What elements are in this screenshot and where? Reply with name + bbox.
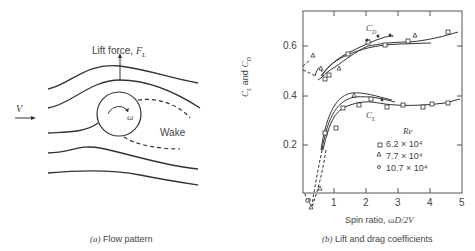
ytick-0.6: 0.6 — [283, 40, 297, 51]
caption-a-prefix: (a) — [90, 234, 101, 244]
wake-lower-line — [124, 137, 180, 149]
cylinder — [97, 92, 141, 136]
streamline — [48, 66, 198, 89]
wake-upper-line — [138, 99, 190, 118]
xtick-1: 1 — [331, 197, 337, 208]
x-axis-label: Spin ratio, ωD/2V — [345, 215, 413, 225]
omega-label: ω — [127, 112, 133, 122]
cd-curve-label: CD — [366, 23, 376, 35]
y-axis-label: CL and CD — [240, 57, 252, 97]
caption-a-text: Flow pattern — [103, 234, 153, 244]
legend-markers — [377, 143, 382, 169]
legend-title: Re — [403, 126, 413, 136]
caption-b-text: Lift and drag coefficients — [335, 234, 432, 244]
caption-b-prefix: (b) — [322, 234, 333, 244]
streamline — [48, 123, 98, 133]
x-axis-label-prefix: Spin ratio, — [345, 215, 388, 225]
streamline — [48, 171, 198, 185]
ytick-0.2: 0.2 — [283, 139, 297, 150]
cl-curve-label: CL — [366, 110, 375, 122]
cd-curve-7.7e4 — [322, 43, 431, 76]
xtick-4: 4 — [427, 197, 433, 208]
lift-force-label: Lift force, FL — [92, 45, 146, 59]
lift-subscript: L — [142, 51, 146, 59]
x-axis-label-expr: ωD/2V — [388, 215, 413, 225]
wake-label: Wake — [160, 127, 185, 138]
velocity-label: V — [16, 103, 22, 114]
xtick-5: 5 — [459, 197, 465, 208]
legend-item-10.7e4: 10.7 × 10⁴ — [386, 163, 428, 173]
legend-item-6.2e4: 6.2 × 10⁴ — [386, 139, 423, 149]
caption-a: (a) Flow pattern — [90, 234, 153, 244]
xtick-2: 2 — [363, 197, 369, 208]
lift-label-text: Lift force, — [92, 45, 136, 56]
streamline — [48, 147, 198, 169]
legend-item-7.7e4: 7.7 × 10⁴ — [386, 151, 423, 161]
ytick-0.4: 0.4 — [283, 90, 297, 101]
xtick-3: 3 — [395, 197, 401, 208]
caption-b: (b) Lift and drag coefficients — [322, 234, 432, 244]
cd-curve-6.2e4 — [318, 32, 458, 80]
cd-curve-10.7e4 — [321, 36, 393, 76]
